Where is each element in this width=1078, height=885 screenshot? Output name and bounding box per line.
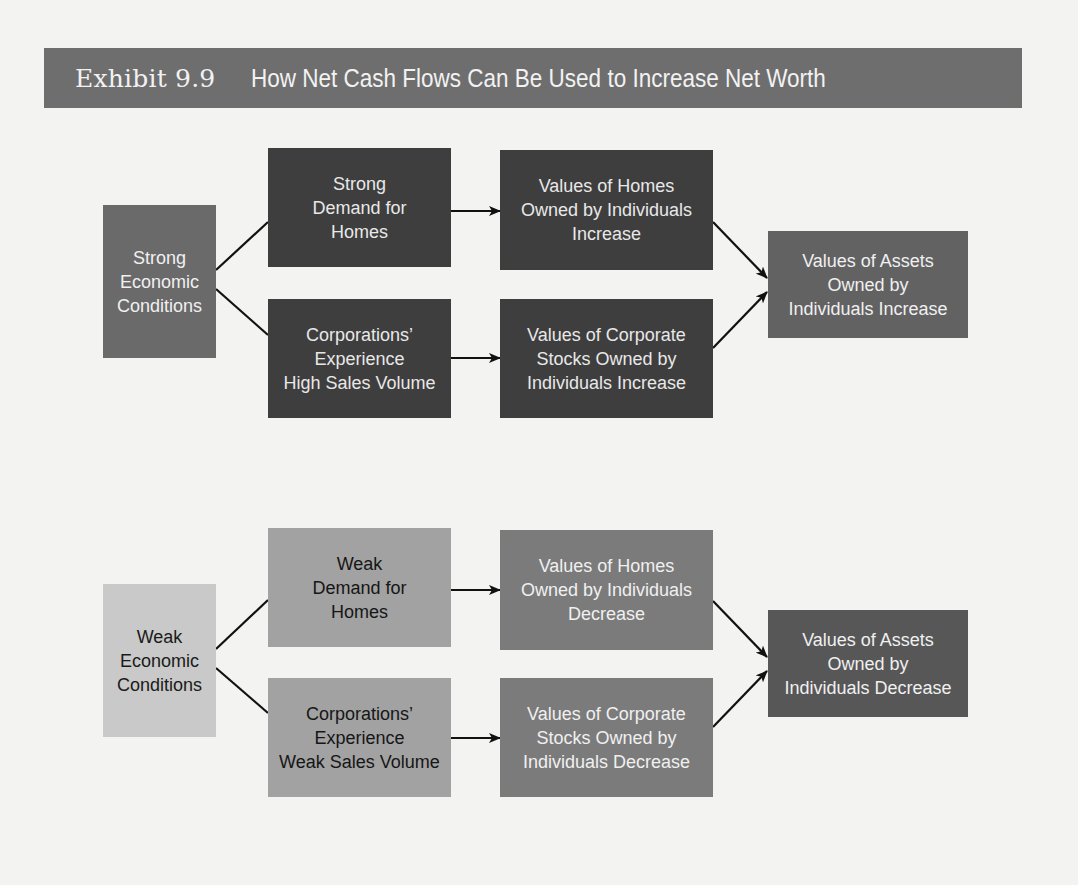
asset-values-increase-box: Values of Assets Owned by Individuals In… xyxy=(768,231,968,338)
connector-line xyxy=(216,222,268,270)
box-label: Corporations’ Experience Weak Sales Volu… xyxy=(279,702,440,774)
stock-values-increase-box: Values of Corporate Stocks Owned by Indi… xyxy=(500,299,713,418)
box-label: Values of Homes Owned by Individuals Inc… xyxy=(521,174,692,246)
arrow-diagonal xyxy=(713,601,767,657)
box-label: Weak Demand for Homes xyxy=(312,552,406,624)
high-sales-volume-box: Corporations’ Experience High Sales Volu… xyxy=(268,299,451,418)
box-label: Values of Homes Owned by Individuals Dec… xyxy=(521,554,692,626)
box-label: Strong Demand for Homes xyxy=(312,172,406,244)
exhibit-title: How Net Cash Flows Can Be Used to Increa… xyxy=(251,64,826,93)
arrow-diagonal xyxy=(713,292,767,348)
asset-values-decrease-box: Values of Assets Owned by Individuals De… xyxy=(768,610,968,717)
exhibit-title-bar: Exhibit 9.9 How Net Cash Flows Can Be Us… xyxy=(44,48,1022,108)
connector-line xyxy=(216,668,268,713)
exhibit-number: Exhibit 9.9 xyxy=(75,64,215,93)
strong-economic-conditions-box: Strong Economic Conditions xyxy=(103,205,216,358)
home-values-decrease-box: Values of Homes Owned by Individuals Dec… xyxy=(500,530,713,650)
box-label: Values of Assets Owned by Individuals De… xyxy=(784,628,951,700)
arrow-diagonal xyxy=(713,222,767,278)
strong-demand-homes-box: Strong Demand for Homes xyxy=(268,148,451,267)
weak-economic-conditions-box: Weak Economic Conditions xyxy=(103,584,216,737)
home-values-increase-box: Values of Homes Owned by Individuals Inc… xyxy=(500,150,713,270)
weak-demand-homes-box: Weak Demand for Homes xyxy=(268,528,451,647)
connector-line xyxy=(216,289,268,335)
box-label: Values of Corporate Stocks Owned by Indi… xyxy=(527,323,686,395)
arrow-diagonal xyxy=(713,671,767,727)
stock-values-decrease-box: Values of Corporate Stocks Owned by Indi… xyxy=(500,678,713,797)
weak-sales-volume-box: Corporations’ Experience Weak Sales Volu… xyxy=(268,678,451,797)
box-label: Strong Economic Conditions xyxy=(117,246,202,318)
box-label: Values of Corporate Stocks Owned by Indi… xyxy=(523,702,690,774)
box-label: Values of Assets Owned by Individuals In… xyxy=(788,249,947,321)
connector-line xyxy=(216,600,268,649)
box-label: Corporations’ Experience High Sales Volu… xyxy=(283,323,435,395)
box-label: Weak Economic Conditions xyxy=(117,625,202,697)
